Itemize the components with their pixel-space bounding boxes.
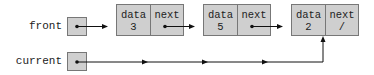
list-node-3: data 3 next xyxy=(116,4,184,36)
front-label: front xyxy=(2,20,62,32)
data-field-label: data xyxy=(296,9,321,21)
data-value: 3 xyxy=(117,21,150,33)
data-field: data 2 xyxy=(292,5,325,35)
data-field-label: data xyxy=(121,9,146,21)
data-value: 5 xyxy=(204,21,237,33)
current-arrow xyxy=(75,36,325,65)
next-field-label: next xyxy=(241,9,266,21)
next-field-label: next xyxy=(154,9,179,21)
list-node-5: data 5 next xyxy=(203,4,271,36)
list-node-2: data 2 next / xyxy=(291,4,359,36)
next-field: next xyxy=(150,5,183,35)
next-field-label: next xyxy=(329,9,354,21)
front-pointer-box xyxy=(67,17,87,36)
null-value: / xyxy=(326,21,358,33)
next-field: next / xyxy=(325,5,358,35)
data-field: data 3 xyxy=(117,5,150,35)
current-label: current xyxy=(2,55,62,67)
current-pointer-box xyxy=(67,52,87,71)
next-field: next xyxy=(237,5,270,35)
data-field: data 5 xyxy=(204,5,237,35)
data-field-label: data xyxy=(208,9,233,21)
data-value: 2 xyxy=(292,21,325,33)
